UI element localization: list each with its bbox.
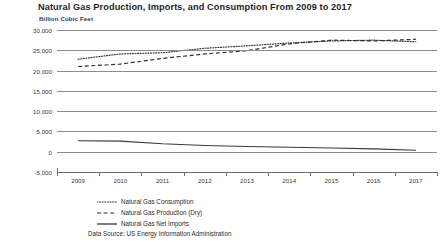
x-axis-tick-label: 2013 [240,177,254,184]
gridline [57,152,437,153]
legend-label: Natural Gas Consumption [121,198,193,206]
x-axis-tick [268,172,269,176]
x-axis-tick-label: 2015 [325,177,339,184]
y-axis-tick-label: -5,000 [34,169,52,176]
legend-line-swatch-dashed-icon [97,209,117,217]
legend-item[interactable]: Natural Gas Net Imports [97,219,202,229]
x-axis-tick-label: 2017 [409,177,423,184]
chart-container: Natural Gas Production, Imports, and Con… [0,0,443,242]
legend-line-swatch-solid-icon [97,220,117,228]
series-lines [57,30,437,172]
series-line [78,39,416,66]
x-axis-tick-label: 2012 [198,177,212,184]
x-axis-tick [99,172,100,176]
chart-legend: Natural Gas ConsumptionNatural Gas Produ… [97,197,202,230]
series-line [78,141,416,151]
x-axis-tick-label: 2009 [71,177,85,184]
y-axis-tick-label: 30,000 [33,27,52,34]
x-axis-tick [310,172,311,176]
legend-label: Natural Gas Net Imports [121,220,189,228]
legend-item[interactable]: Natural Gas Consumption [97,197,202,207]
gridline [57,71,437,72]
x-axis-tick [141,172,142,176]
gridline [57,50,437,51]
y-axis-tick-label: 20,000 [33,67,52,74]
gridline [57,131,437,132]
x-axis-tick [353,172,354,176]
x-axis-tick-label: 2014 [282,177,296,184]
plot-area [57,30,437,172]
x-axis-tick [184,172,185,176]
gridline [57,111,437,112]
gridline [57,30,437,31]
chart-title: Natural Gas Production, Imports, and Con… [38,2,352,12]
x-axis-tick-label: 2010 [113,177,127,184]
y-axis-tick-label: 5,000 [37,128,52,135]
y-axis-tick-label: 0 [49,148,52,155]
chart-subtitle: Billion Cubic Feet [39,15,93,22]
x-axis-tick [437,172,438,176]
y-axis-tick-label: 25,000 [33,47,52,54]
y-axis-labels: -5,00005,00010,00015,00020,00025,00030,0… [0,30,52,172]
x-axis-tick-label: 2011 [156,177,169,184]
legend-line-swatch-dotted-icon [97,198,117,206]
legend-item[interactable]: Natural Gas Production (Dry) [97,208,202,218]
x-axis-tick-label: 2016 [367,177,381,184]
gridline [57,91,437,92]
legend-label: Natural Gas Production (Dry) [121,209,202,217]
x-axis-tick [395,172,396,176]
x-axis-tick [226,172,227,176]
y-axis-tick-label: 10,000 [33,108,52,115]
y-axis-tick-label: 15,000 [33,87,52,94]
x-axis-line [57,172,437,173]
data-source-note: Data Source: US Energy Information Admin… [88,230,232,237]
x-axis-tick [57,172,58,176]
